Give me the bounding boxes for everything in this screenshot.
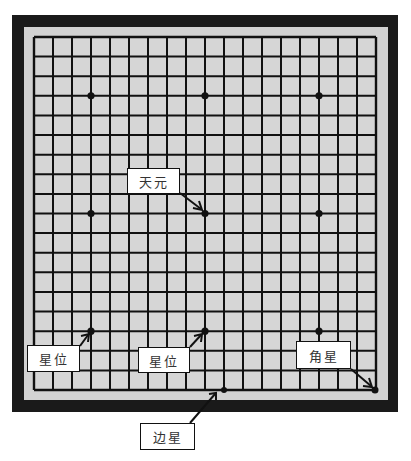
label-edge-star: 边星 bbox=[140, 423, 195, 450]
edge-point bbox=[221, 387, 227, 393]
label-star-left: 星位 bbox=[27, 345, 80, 372]
star-point bbox=[87, 210, 94, 217]
star-point bbox=[315, 92, 322, 99]
label-corner-star: 角星 bbox=[296, 341, 351, 369]
label-star-mid-text: 星位 bbox=[149, 351, 179, 370]
label-star-left-text: 星位 bbox=[39, 349, 69, 368]
label-tengen: 天元 bbox=[127, 168, 180, 194]
star-point bbox=[87, 92, 94, 99]
label-star-mid: 星位 bbox=[138, 347, 190, 373]
star-point bbox=[315, 328, 322, 335]
go-board-diagram: 天元 星位 星位 角星 边星 bbox=[0, 0, 411, 461]
go-board bbox=[0, 0, 411, 461]
label-edge-star-text: 边星 bbox=[153, 427, 183, 446]
label-tengen-text: 天元 bbox=[139, 172, 169, 191]
star-point bbox=[315, 210, 322, 217]
star-point bbox=[201, 92, 208, 99]
label-corner-star-text: 角星 bbox=[309, 346, 339, 365]
